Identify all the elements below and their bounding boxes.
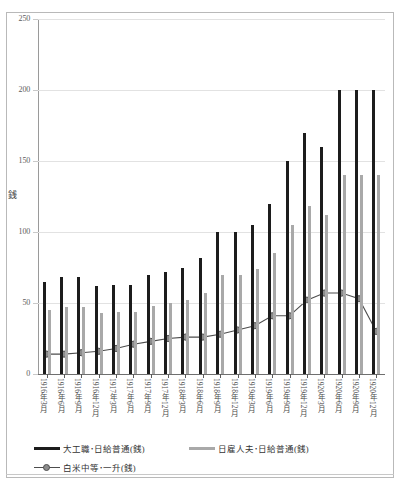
bar--4 (117, 312, 120, 374)
y-axis-title: 銭 (8, 188, 17, 201)
x-tick-label-17: 1920年6月 (334, 378, 342, 413)
x-tick-label-13: 1919年6月 (264, 378, 272, 413)
bar--8 (186, 300, 189, 374)
bar--18 (360, 175, 363, 374)
bar--15 (303, 133, 306, 374)
rice-price-line (38, 19, 385, 374)
light-bar-swatch-icon (189, 447, 215, 450)
x-tick-label-0: 1916年3月 (39, 378, 47, 413)
x-tick-label-9: 1918年6月 (195, 378, 203, 413)
x-tick-label-11: 1918年12月 (230, 378, 238, 417)
bar--11 (234, 232, 237, 374)
x-tick-label-15: 1919年12月 (299, 378, 307, 417)
y-tick-100 (33, 232, 38, 233)
y-tick-50 (33, 303, 38, 304)
bar--5 (129, 285, 132, 374)
y-tick-150 (33, 161, 38, 162)
x-tick-label-1: 1916年6月 (56, 378, 64, 413)
legend-label-hiyatoi: 日雇人夫･日給普通(銭) (218, 442, 309, 454)
x-tick-label-12: 1919年3月 (247, 378, 255, 413)
legend-item-kome[interactable]: 白米中等･一升(銭) (34, 461, 136, 473)
bar--16 (325, 215, 328, 374)
line-marker-swatch-icon (34, 463, 60, 471)
y-tick-label-200: 200 (4, 86, 30, 94)
legend-item-daiku[interactable]: 大工職･日給普通(銭) (34, 442, 145, 454)
bar--5 (134, 312, 137, 374)
gridline-200 (38, 90, 385, 91)
bar--1 (65, 307, 68, 374)
bar--6 (147, 275, 150, 374)
bar--7 (169, 303, 172, 374)
chart-root: 050100150200250 銭 大工職･日給普通(銭) 日雇人夫･日給普通(… (0, 0, 401, 485)
bar--4 (112, 285, 115, 374)
x-axis-line (38, 374, 385, 375)
bar--9 (204, 293, 207, 374)
bar--0 (43, 282, 46, 374)
x-tick-label-6: 1917年9月 (143, 378, 151, 413)
x-tick-label-14: 1919年9月 (282, 378, 290, 413)
bar--0 (48, 310, 51, 374)
bar--10 (221, 275, 224, 374)
legend-label-daiku: 大工職･日給普通(銭) (63, 442, 145, 454)
gridline-250 (38, 19, 385, 20)
x-tick-label-7: 1917年12月 (160, 378, 168, 417)
bar--2 (77, 277, 80, 374)
x-tick-label-3: 1916年12月 (91, 378, 99, 417)
bar--18 (355, 90, 358, 374)
legend-item-hiyatoi[interactable]: 日雇人夫･日給普通(銭) (189, 442, 309, 454)
dark-bar-swatch-icon (34, 447, 60, 450)
y-tick-label-250: 250 (4, 15, 30, 23)
chart-legend: 大工職･日給普通(銭) 日雇人夫･日給普通(銭) 白米中等･一升(銭) (34, 440, 384, 476)
bar--3 (95, 286, 98, 374)
bar--1 (60, 277, 63, 374)
y-tick-200 (33, 90, 38, 91)
bar--14 (286, 161, 289, 374)
x-tick-label-10: 1918年9月 (212, 378, 220, 413)
gridline-50 (38, 303, 385, 304)
x-tick-label-18: 1920年9月 (351, 378, 359, 413)
y-tick-label-50: 50 (4, 299, 30, 307)
bar--13 (273, 253, 276, 374)
bar--6 (152, 306, 155, 374)
y-tick-0 (33, 374, 38, 375)
x-tick-label-4: 1917年3月 (108, 378, 116, 413)
bar--19 (377, 175, 380, 374)
bar--3 (100, 313, 103, 374)
y-tick-label-0: 0 (4, 370, 30, 378)
bar--10 (216, 232, 219, 374)
plot-area: 050100150200250 (38, 19, 385, 374)
legend-row-1: 大工職･日給普通(銭) 日雇人夫･日給普通(銭) (34, 440, 384, 458)
bar--9 (199, 258, 202, 374)
bar--13 (268, 204, 271, 374)
bar--11 (239, 275, 242, 374)
x-tick-label-8: 1918年3月 (177, 378, 185, 413)
bar--12 (251, 225, 254, 374)
bar--14 (291, 225, 294, 374)
x-tick-label-5: 1917年6月 (125, 378, 133, 413)
y-tick-label-150: 150 (4, 157, 30, 165)
bar--16 (320, 147, 323, 374)
bar--17 (338, 90, 341, 374)
legend-label-kome: 白米中等･一升(銭) (63, 461, 136, 473)
bar--12 (256, 269, 259, 374)
bar--7 (164, 272, 167, 374)
bar--2 (82, 307, 85, 374)
bar--19 (372, 90, 375, 374)
bar--8 (181, 268, 184, 375)
gridline-150 (38, 161, 385, 162)
x-tick-label-16: 1920年3月 (316, 378, 324, 413)
bar--15 (308, 206, 311, 374)
rice-price-line-layer (38, 19, 385, 374)
gridline-100 (38, 232, 385, 233)
bar--17 (343, 175, 346, 374)
y-tick-label-100: 100 (4, 228, 30, 236)
x-tick-label-19: 1920年12月 (368, 378, 376, 417)
legend-divider (6, 474, 394, 475)
x-tick-label-2: 1916年9月 (73, 378, 81, 413)
y-tick-250 (33, 19, 38, 20)
